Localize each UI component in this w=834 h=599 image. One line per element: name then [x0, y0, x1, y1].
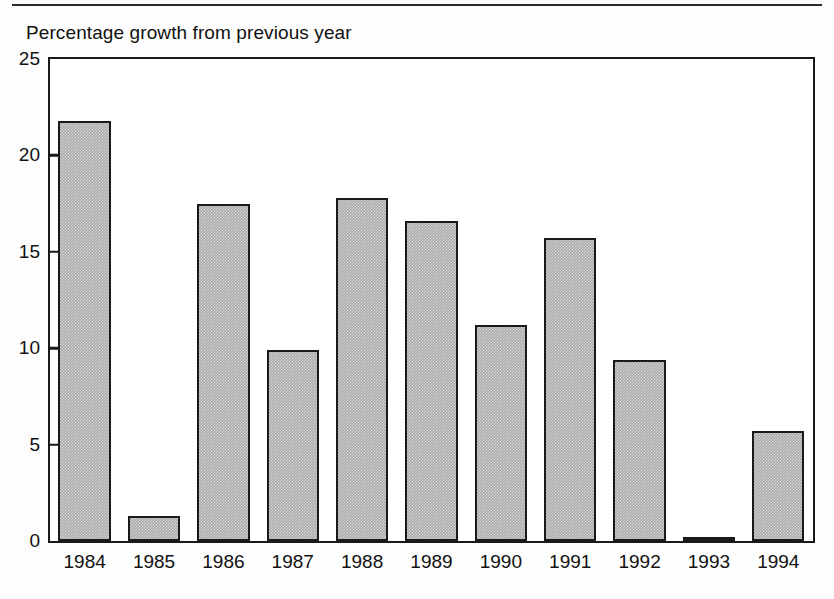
- x-axis-tick-label: 1990: [466, 551, 535, 573]
- y-axis-tick-label: 20: [0, 144, 40, 166]
- y-axis-tick-label: 15: [0, 241, 40, 263]
- bar-1994: [752, 431, 804, 541]
- y-axis-tick-label: 5: [0, 434, 40, 456]
- x-axis-tick-label: 1984: [50, 551, 119, 573]
- chart-title: Percentage growth from previous year: [26, 22, 352, 44]
- x-axis-tick-label: 1991: [536, 551, 605, 573]
- bar-1987: [267, 350, 319, 541]
- bar-1990: [475, 325, 527, 541]
- bar-1984: [58, 121, 110, 541]
- bar-series: [50, 59, 813, 541]
- top-divider-rule: [12, 4, 822, 6]
- x-axis-tick-label: 1985: [119, 551, 188, 573]
- x-axis-tick-label: 1994: [744, 551, 813, 573]
- bar-1993: [683, 537, 735, 541]
- x-axis-tick-label: 1989: [397, 551, 466, 573]
- x-axis-tick-label: 1993: [674, 551, 743, 573]
- x-axis-tick-label: 1986: [189, 551, 258, 573]
- y-axis-tick-label: 0: [0, 530, 40, 552]
- chart-figure: Percentage growth from previous year 051…: [0, 0, 834, 599]
- y-axis-tick-label: 25: [0, 48, 40, 70]
- x-axis-tick-label: 1987: [258, 551, 327, 573]
- bar-1992: [613, 360, 665, 541]
- bar-1985: [128, 516, 180, 541]
- bar-1988: [336, 198, 388, 541]
- y-axis-tick-label: 10: [0, 337, 40, 359]
- bar-1986: [197, 204, 249, 541]
- x-axis-tick-label: 1992: [605, 551, 674, 573]
- bar-1989: [405, 221, 457, 541]
- x-axis-tick-label: 1988: [327, 551, 396, 573]
- bar-1991: [544, 238, 596, 541]
